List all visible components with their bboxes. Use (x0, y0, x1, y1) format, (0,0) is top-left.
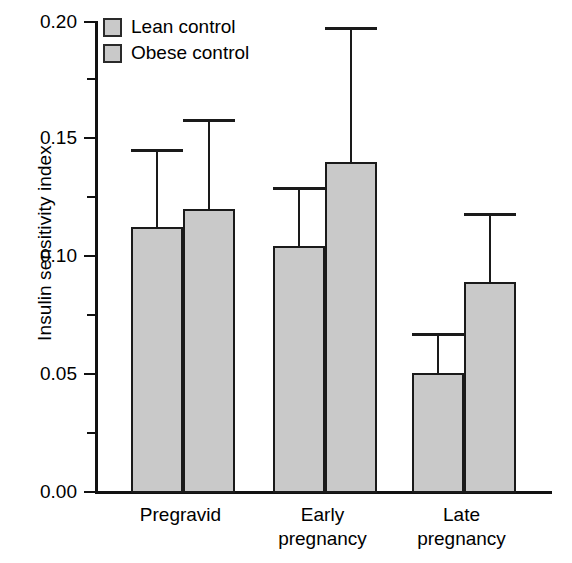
y-tick-0.10: 0.10 (84, 255, 95, 257)
errorbar-cap-obese-control-pregravid (183, 119, 235, 122)
legend-label-lean-control: Lean control (131, 16, 236, 38)
y-tick-minor-0.075 (87, 314, 95, 316)
y-tick-0.00: 0.00 (84, 491, 95, 493)
legend-item-obese-control: Obese control (103, 40, 249, 66)
bar-lean-control-late-pregnancy (412, 373, 464, 493)
errorbar-stem-obese-control-late-pregnancy (489, 216, 491, 282)
group-label-early-pregnancy: Early pregnancy (246, 503, 399, 551)
bar-lean-control-pregravid (131, 227, 183, 493)
legend-item-lean-control: Lean control (103, 14, 249, 40)
y-tick-label-0.05: 0.05 (40, 363, 77, 385)
bar-obese-control-pregravid (183, 209, 235, 493)
y-tick-label-0.15: 0.15 (40, 127, 77, 149)
bar-lean-control-early-pregnancy (273, 246, 325, 493)
errorbar-stem-lean-control-late-pregnancy (437, 336, 439, 374)
y-tick-label-0.10: 0.10 (40, 245, 77, 267)
errorbar-cap-lean-control-early-pregnancy (273, 187, 325, 190)
errorbar-cap-obese-control-late-pregnancy (464, 213, 516, 216)
y-tick-minor-0.125 (87, 196, 95, 198)
bar-obese-control-early-pregnancy (325, 162, 377, 493)
y-axis-title: Insulin sensitivity index (34, 73, 56, 413)
legend-label-obese-control: Obese control (131, 42, 249, 64)
legend: Lean control Obese control (103, 14, 249, 66)
y-tick-minor-0.025 (87, 432, 95, 434)
insulin-sensitivity-bar-chart: Insulin sensitivity index 0.00 0.05 0.10… (0, 0, 572, 563)
plot-area: 0.00 0.05 0.10 0.15 0.20 Pregravid Early… (95, 21, 552, 493)
legend-swatch-lean-control (103, 18, 122, 37)
errorbar-cap-lean-control-pregravid (131, 149, 183, 152)
bar-obese-control-late-pregnancy (464, 282, 516, 494)
group-label-pregravid: Pregravid (104, 503, 257, 527)
y-tick-0.15: 0.15 (84, 137, 95, 139)
y-tick-minor-0.175 (87, 78, 95, 80)
errorbar-stem-lean-control-pregravid (156, 152, 158, 227)
legend-swatch-obese-control (103, 44, 122, 63)
errorbar-stem-lean-control-early-pregnancy (298, 190, 300, 246)
y-tick-label-0.00: 0.00 (40, 481, 77, 503)
group-label-late-pregnancy: Late pregnancy (385, 503, 538, 551)
errorbar-cap-obese-control-early-pregnancy (325, 27, 377, 30)
y-tick-label-0.20: 0.20 (40, 11, 77, 33)
errorbar-stem-obese-control-early-pregnancy (350, 30, 352, 162)
y-tick-0.05: 0.05 (84, 373, 95, 375)
errorbar-cap-lean-control-late-pregnancy (412, 333, 464, 336)
errorbar-stem-obese-control-pregravid (208, 122, 210, 209)
y-axis-line (95, 21, 98, 494)
y-tick-0.20: 0.20 (84, 21, 95, 23)
